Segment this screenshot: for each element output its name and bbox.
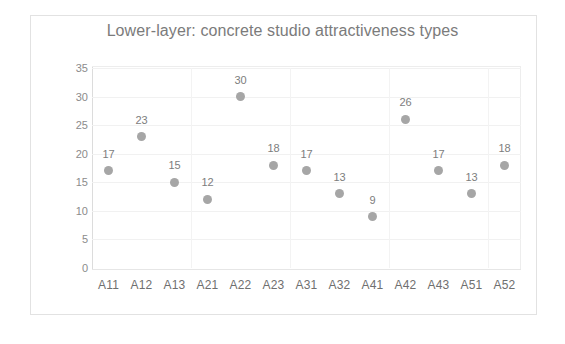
data-point-label: 26 [386, 97, 426, 108]
data-point[interactable] [170, 178, 179, 187]
y-axis-tick-label: 25 [62, 120, 88, 131]
data-point[interactable] [203, 195, 212, 204]
gridline-horizontal [92, 68, 521, 69]
plot-area: 1723151230181713926171318 [92, 68, 521, 268]
gridline-vertical [488, 68, 489, 268]
data-point-label: 17 [419, 149, 459, 160]
data-point-label: 15 [155, 160, 195, 171]
data-point-label: 18 [485, 143, 525, 154]
y-axis-tick-label: 35 [62, 63, 88, 74]
data-point[interactable] [434, 166, 443, 175]
data-point[interactable] [302, 166, 311, 175]
data-point[interactable] [500, 161, 509, 170]
gridline-horizontal [92, 97, 521, 98]
x-axis-line [92, 269, 521, 270]
data-point[interactable] [335, 189, 344, 198]
data-point-label: 9 [353, 195, 393, 206]
data-point[interactable] [401, 115, 410, 124]
data-point-label: 13 [320, 172, 360, 183]
data-point[interactable] [236, 92, 245, 101]
data-point[interactable] [104, 166, 113, 175]
y-axis-tick-label: 0 [62, 263, 88, 274]
data-point-label: 17 [287, 149, 327, 160]
y-axis-tick-labels: 05101520253035 [58, 0, 88, 344]
data-point-label: 17 [89, 149, 129, 160]
y-axis-tick-label: 15 [62, 177, 88, 188]
gridline-vertical [290, 68, 291, 268]
data-point[interactable] [467, 189, 476, 198]
x-axis-tick-label: A52 [485, 278, 525, 292]
data-point-label: 12 [188, 177, 228, 188]
y-axis-tick-label: 10 [62, 206, 88, 217]
gridline-horizontal [92, 211, 521, 212]
y-axis-tick-label: 5 [62, 234, 88, 245]
y-axis-tick-label: 20 [62, 149, 88, 160]
data-point-label: 13 [452, 172, 492, 183]
data-point[interactable] [368, 212, 377, 221]
data-point-label: 30 [221, 75, 261, 86]
data-point[interactable] [137, 132, 146, 141]
data-point[interactable] [269, 161, 278, 170]
data-point-label: 23 [122, 115, 162, 126]
gridline-horizontal [92, 239, 521, 240]
y-axis-tick-label: 30 [62, 92, 88, 103]
plot-top-border [92, 66, 521, 67]
